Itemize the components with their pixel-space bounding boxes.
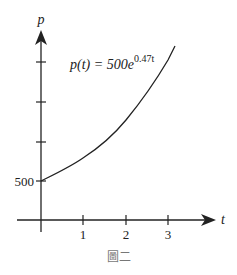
x-tick-label-3: 3 — [165, 227, 172, 242]
formula-main: p(t) = 500e — [69, 57, 134, 73]
y-axis-label: p — [37, 12, 45, 27]
x-tick-label-2: 2 — [123, 227, 130, 242]
formula-exponent: 0.47t — [134, 53, 155, 64]
figure-caption: 圖二 — [0, 247, 237, 264]
x-axis-label: t — [221, 212, 226, 227]
formula-annotation: p(t) = 500e0.47t — [69, 53, 154, 73]
y-tick-label-500: 500 — [15, 174, 35, 189]
exponential-growth-chart: p t 500 1 2 3 p(t) = 500e0.47t — [0, 0, 237, 275]
x-tick-label-1: 1 — [80, 227, 87, 242]
